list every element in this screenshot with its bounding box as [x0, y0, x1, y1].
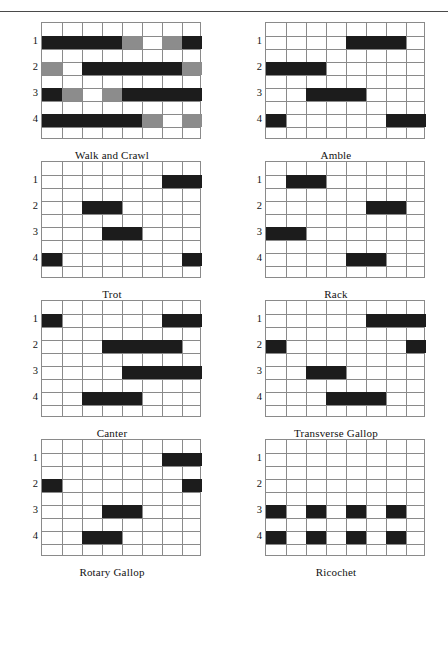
grid-hline — [266, 479, 424, 480]
grid-vline — [326, 23, 327, 138]
limb-label-3: 3 — [33, 88, 38, 99]
limb-label-1: 1 — [33, 175, 38, 186]
gait-plot — [41, 439, 201, 556]
gait-bar — [386, 505, 406, 518]
limb-label-3: 3 — [257, 227, 262, 238]
gait-bar — [182, 114, 202, 127]
grid-hline — [42, 75, 200, 76]
gait-panel-grid: 1234Walk and Crawl1234Amble1234Trot1234R… — [0, 22, 448, 578]
limb-label-2: 2 — [33, 62, 38, 73]
gait-plot — [265, 22, 425, 139]
gait-bar — [346, 505, 366, 518]
gait-bar — [386, 531, 406, 544]
grid-hline — [266, 453, 424, 454]
gait-bar — [346, 36, 406, 49]
gait-bar — [326, 392, 386, 405]
gait-bar — [366, 201, 406, 214]
gait-panel: 1234Canter — [0, 300, 224, 439]
gait-bar — [122, 366, 202, 379]
grid-hline — [266, 127, 424, 128]
gait-diagram-page: 1234Walk and Crawl1234Amble1234Trot1234R… — [0, 0, 448, 651]
gait-bar — [102, 88, 122, 101]
limb-label-2: 2 — [33, 201, 38, 212]
grid-vline — [406, 440, 407, 555]
gait-bar — [42, 479, 62, 492]
gait-panel: 1234Rotary Gallop — [0, 439, 224, 578]
gait-panel: 1234Walk and Crawl — [0, 22, 224, 161]
limb-label-4: 4 — [257, 253, 262, 264]
grid-vline — [142, 440, 143, 555]
limb-label-2: 2 — [257, 62, 262, 73]
gait-bar — [266, 227, 306, 240]
grid-hline — [42, 127, 200, 128]
gait-bar — [266, 62, 326, 75]
gait-bar — [42, 314, 62, 327]
limb-label-4: 4 — [33, 253, 38, 264]
gait-bar — [122, 88, 202, 101]
grid-vline — [62, 301, 63, 416]
gait-caption: Transverse Gallop — [294, 427, 378, 439]
grid-hline — [266, 340, 424, 341]
grid-hline — [42, 240, 200, 241]
grid-hline — [42, 266, 200, 267]
gait-plot — [265, 439, 425, 556]
gait-chart-area: 1234 — [21, 439, 203, 559]
limb-label-3: 3 — [257, 366, 262, 377]
gait-plot — [41, 300, 201, 417]
gait-plot — [265, 300, 425, 417]
limb-label-4: 4 — [257, 114, 262, 125]
gait-panel: 1234Amble — [224, 22, 448, 161]
gait-bar — [102, 227, 142, 240]
gait-bar — [266, 505, 286, 518]
limb-label-1: 1 — [257, 314, 262, 325]
gait-bar — [82, 201, 122, 214]
gait-bar — [162, 453, 202, 466]
grid-hline — [42, 379, 200, 380]
gait-bar — [386, 114, 426, 127]
gait-bar — [182, 62, 202, 75]
grid-hline — [42, 49, 200, 50]
grid-hline — [266, 75, 424, 76]
gait-chart-area: 1234 — [21, 22, 203, 142]
limb-axis-labels: 1234 — [21, 22, 41, 139]
grid-hline — [42, 188, 200, 189]
gait-plot — [265, 161, 425, 278]
gait-bar — [42, 114, 142, 127]
grid-hline — [42, 327, 200, 328]
grid-vline — [286, 23, 287, 138]
limb-axis-labels: 1234 — [245, 161, 265, 278]
grid-hline — [266, 353, 424, 354]
grid-vline — [122, 440, 123, 555]
limb-label-3: 3 — [257, 505, 262, 516]
grid-vline — [306, 23, 307, 138]
limb-label-4: 4 — [33, 531, 38, 542]
grid-vline — [406, 162, 407, 277]
gait-caption: Walk and Crawl — [75, 149, 149, 161]
gait-bar — [182, 253, 202, 266]
grid-hline — [266, 266, 424, 267]
gait-bar — [306, 366, 346, 379]
gait-bar — [346, 531, 366, 544]
grid-hline — [266, 492, 424, 493]
limb-axis-labels: 1234 — [245, 300, 265, 417]
gait-chart-area: 1234 — [245, 300, 427, 420]
gait-panel: 1234Transverse Gallop — [224, 300, 448, 439]
grid-hline — [266, 49, 424, 50]
limb-label-2: 2 — [257, 340, 262, 351]
grid-hline — [266, 188, 424, 189]
gait-bar — [406, 340, 426, 353]
gait-bar — [286, 175, 326, 188]
grid-hline — [266, 379, 424, 380]
grid-vline — [366, 440, 367, 555]
limb-label-2: 2 — [257, 479, 262, 490]
gait-bar — [306, 505, 326, 518]
limb-label-3: 3 — [33, 505, 38, 516]
gait-bar — [162, 175, 202, 188]
grid-vline — [306, 301, 307, 416]
gait-bar — [306, 88, 366, 101]
gait-bar — [346, 253, 386, 266]
grid-hline — [266, 214, 424, 215]
grid-vline — [386, 162, 387, 277]
grid-vline — [286, 440, 287, 555]
grid-hline — [266, 466, 424, 467]
